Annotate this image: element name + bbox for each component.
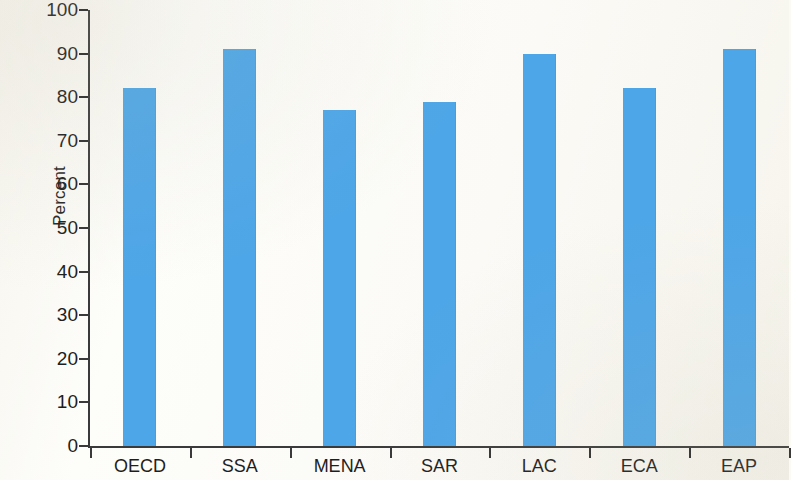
bar-oecd [123,88,156,446]
y-axis-tick-mark [79,96,88,98]
x-axis-tick-label: LAC [489,456,589,477]
x-axis-tick-label: SSA [190,456,290,477]
bar-eca [623,88,656,446]
y-axis-tick-mark [79,358,88,360]
y-axis-tick-label: 30 [32,305,78,324]
y-axis-tick-mark [79,140,88,142]
x-axis-tick-mark [589,448,591,458]
y-axis-tick-label: 100 [32,0,78,19]
y-axis-tick-mark [79,401,88,403]
y-axis-tick-label: 10 [32,392,78,411]
bar-lac [523,54,556,446]
x-axis-tick-mark [689,448,691,458]
y-axis-tick-mark [79,9,88,11]
x-axis-tick-mark [190,448,192,458]
y-axis-tick-label: 20 [32,349,78,368]
y-axis-tick-label: 40 [32,262,78,281]
y-axis-tick-mark [79,227,88,229]
y-axis-tick-label: 60 [32,174,78,193]
x-axis-tick-label: OECD [90,456,190,477]
x-axis-tick-label: EAP [689,456,789,477]
x-axis-tick-label: SAR [390,456,490,477]
y-axis-tick-label: 80 [32,87,78,106]
x-axis-tick-mark [290,448,292,458]
x-axis-tick-label: ECA [589,456,689,477]
y-axis-tick-mark [79,53,88,55]
x-axis-tick-mark [390,448,392,458]
bar-sar [423,102,456,446]
x-axis-tick-mark [489,448,491,458]
x-axis-tick-labels: OECDSSAMENASARLACECAEAP [90,456,789,480]
bar-eap [723,49,756,446]
y-axis-tick-mark [79,445,88,447]
x-axis-tick-label: MENA [290,456,390,477]
y-axis-tick-mark [79,183,88,185]
y-axis-tick-label: 70 [32,131,78,150]
y-axis-tick-label: 50 [32,218,78,237]
y-axis-tick-labels: 1009080706050403020100 [22,0,78,480]
y-axis-tick-mark [79,271,88,273]
plot-area [90,10,789,446]
bar-ssa [223,49,256,446]
y-axis-tick-label: 90 [32,44,78,63]
bar-mena [323,110,356,446]
x-axis-tick-mark [90,448,92,458]
x-axis-line [88,446,789,448]
y-axis-tick-mark [79,314,88,316]
y-axis-tick-label: 0 [32,436,78,455]
